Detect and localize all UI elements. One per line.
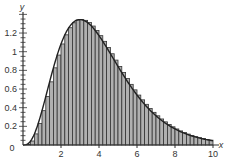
origin-label: 0 <box>9 143 14 153</box>
bar <box>126 79 130 145</box>
bar <box>91 26 95 145</box>
bar <box>50 82 54 145</box>
bar <box>171 127 175 145</box>
x-tick-label: 6 <box>134 149 139 159</box>
x-tick-label: 8 <box>172 149 177 159</box>
bar <box>95 30 99 145</box>
y-tick-label: 0.8 <box>4 65 17 75</box>
bar <box>72 23 76 145</box>
bar <box>133 90 137 145</box>
bar <box>46 96 50 145</box>
x-tick-label: 4 <box>96 149 101 159</box>
bar <box>84 20 88 145</box>
bar <box>80 20 84 145</box>
bar <box>129 84 133 145</box>
y-axis-label: y <box>19 2 25 12</box>
bar <box>141 100 145 145</box>
y-tick-label: 1 <box>12 47 17 57</box>
bar <box>57 55 61 145</box>
bar <box>53 68 57 145</box>
bar <box>137 95 141 145</box>
bar <box>31 141 35 145</box>
bar <box>103 41 107 145</box>
x-axis-label: x <box>218 140 224 150</box>
bar <box>148 109 152 145</box>
bar <box>167 124 171 145</box>
y-tick-label: 1.2 <box>4 28 17 38</box>
bar <box>160 119 164 145</box>
bar <box>118 66 122 145</box>
bar <box>122 73 126 145</box>
y-tick-label: 0.4 <box>4 103 17 113</box>
riemann-sum-chart: 2468100.20.40.60.811.20xy <box>0 0 225 160</box>
bar <box>69 28 73 145</box>
bar <box>88 23 92 145</box>
bar <box>76 20 80 145</box>
bar <box>42 111 46 145</box>
histogram-bars <box>27 20 213 145</box>
bar <box>114 60 118 145</box>
bar <box>38 124 42 145</box>
bar <box>34 134 38 145</box>
y-tick-label: 0.6 <box>4 84 17 94</box>
bar <box>61 44 65 145</box>
bar <box>107 47 111 145</box>
y-tick-label: 0.2 <box>4 121 17 131</box>
bar <box>156 116 160 145</box>
bar <box>164 122 168 145</box>
bar <box>99 36 103 145</box>
bar <box>65 35 69 145</box>
bar <box>110 54 114 145</box>
x-tick-label: 10 <box>208 149 218 159</box>
bar <box>152 112 156 145</box>
bar <box>145 104 149 145</box>
x-tick-label: 2 <box>58 149 63 159</box>
